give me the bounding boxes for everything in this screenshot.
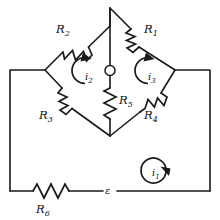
- label-R1: R1: [143, 22, 158, 38]
- wire-upper-right-upper: [110, 8, 131, 29]
- mesh-current-i2-arc: [72, 58, 85, 84]
- label-R3: R3: [38, 108, 53, 124]
- resistor-R6-symbol: [33, 184, 69, 198]
- label-mesh-current-i1: i1: [152, 167, 160, 181]
- label-R4: R4: [143, 108, 158, 124]
- circuit-diagram-figure: R2 R1 R3 R4 R5 R6 ε i2 i3 i1: [0, 0, 220, 220]
- wire-lower-left-lower: [72, 109, 110, 137]
- circuit-canvas: R2 R1 R3 R4 R5 R6 ε i2 i3 i1: [0, 0, 220, 220]
- label-R2: R2: [55, 22, 70, 38]
- wire-upper-left-lower: [45, 52, 63, 70]
- mesh-current-i3-arc: [135, 58, 148, 84]
- wire-upper-left-upper: [89, 8, 111, 47]
- bridge-node-circle: [105, 66, 115, 76]
- resistor-R1-symbol: [126, 29, 139, 53]
- label-mesh-current-i2: i2: [85, 71, 93, 85]
- label-emf-source: ε: [105, 185, 110, 196]
- resistor-R3-symbol: [58, 88, 72, 115]
- label-mesh-current-i3: i3: [148, 71, 156, 85]
- wire-lower-left-upper: [45, 70, 62, 88]
- wire-lower-right-upper: [161, 70, 175, 93]
- label-R6: R6: [35, 202, 50, 218]
- resistor-R5-symbol: [104, 88, 116, 119]
- wire-right-rail: [175, 70, 210, 191]
- wire-left-rail: [10, 70, 45, 191]
- wire-lower-right-lower: [110, 112, 140, 136]
- label-R5: R5: [118, 93, 133, 109]
